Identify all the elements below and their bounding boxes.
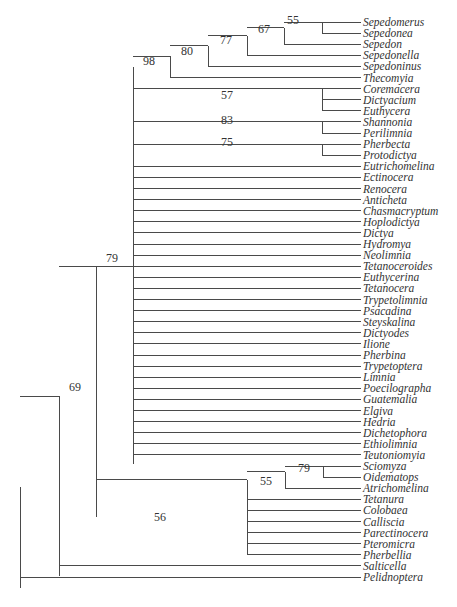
- support-value: 98: [143, 54, 155, 68]
- support-value: 83: [221, 113, 233, 127]
- support-value: 77: [220, 33, 232, 47]
- support-values: 55677780985783757955567969: [69, 13, 310, 524]
- support-value: 79: [298, 461, 310, 475]
- support-value: 55: [260, 474, 272, 488]
- support-value: 67: [258, 22, 270, 36]
- support-value: 75: [221, 135, 233, 149]
- taxon-labels: SepedomerusSepedoneaSepedonSepedonellaSe…: [362, 16, 438, 584]
- taxon-label: Pelidnoptera: [362, 571, 423, 584]
- support-value: 69: [69, 380, 81, 394]
- support-value: 56: [154, 510, 166, 524]
- support-value: 55: [287, 13, 299, 27]
- support-value: 57: [221, 88, 233, 102]
- tree-branches: [20, 22, 361, 588]
- support-value: 80: [181, 44, 193, 58]
- phylogenetic-tree: 55677780985783757955567969 SepedomerusSe…: [0, 0, 457, 607]
- support-value: 79: [106, 251, 118, 265]
